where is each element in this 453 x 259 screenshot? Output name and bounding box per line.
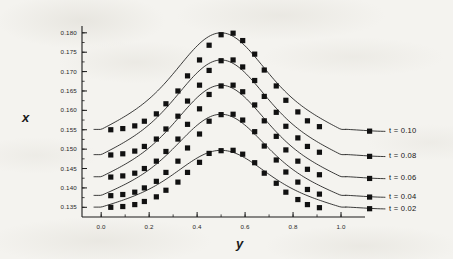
- x-tick-label: 0.4: [187, 223, 207, 230]
- data-point-marker: [120, 173, 125, 178]
- data-point-marker: [283, 147, 288, 152]
- y-tick-label: 0.155: [46, 126, 77, 133]
- series-3: [94, 112, 385, 200]
- data-point-marker: [230, 83, 235, 88]
- data-point-marker: [154, 179, 159, 184]
- y-tick-label: 0.145: [46, 165, 77, 172]
- figure-canvas: x y 0.1800.1750.1700.1650.1600.1550.1500…: [0, 0, 453, 259]
- data-point-marker: [295, 159, 300, 164]
- y-tick-label: 0.170: [46, 68, 77, 75]
- y-tick-label: 0.165: [46, 87, 77, 94]
- x-tick-label: 0.2: [139, 223, 159, 230]
- data-point-marker: [283, 190, 288, 195]
- data-point-marker: [142, 166, 147, 171]
- data-point-marker: [219, 112, 224, 117]
- data-point-marker: [283, 169, 288, 174]
- data-point-marker: [262, 118, 267, 123]
- data-point-marker: [274, 110, 279, 115]
- data-point-marker: [317, 124, 322, 129]
- y-tick-label: 0.160: [46, 106, 77, 113]
- data-point-marker: [240, 38, 245, 43]
- y-tick-label: 0.180: [46, 29, 77, 36]
- x-tick-label: 0.6: [235, 223, 255, 230]
- data-point-marker: [197, 131, 202, 136]
- legend-label-3: t = 0.04: [389, 192, 417, 201]
- data-point-marker: [283, 124, 288, 129]
- data-point-marker: [230, 57, 235, 62]
- data-point-marker: [262, 171, 267, 176]
- data-point-marker: [120, 151, 125, 156]
- y-tick-label: 0.135: [46, 203, 77, 210]
- data-point-marker: [163, 170, 168, 175]
- data-point-marker: [163, 126, 168, 131]
- data-point-marker: [142, 199, 147, 204]
- data-point-marker: [108, 174, 113, 179]
- data-point-marker: [252, 102, 257, 107]
- data-point-marker: [262, 94, 267, 99]
- data-point-marker: [197, 57, 202, 62]
- data-point-marker: [207, 43, 212, 48]
- data-point-marker: [142, 144, 147, 149]
- data-point-marker: [230, 148, 235, 153]
- data-series-group: [94, 31, 385, 212]
- series-2: [94, 83, 385, 182]
- y-axis-title: x: [22, 110, 29, 125]
- data-point-marker: [283, 98, 288, 103]
- x-tick-label: 0.8: [283, 223, 303, 230]
- data-point-marker: [108, 127, 113, 132]
- data-point-marker: [262, 67, 267, 72]
- data-point-marker: [274, 157, 279, 162]
- x-tick-label: 0.0: [91, 223, 111, 230]
- data-point-marker: [108, 152, 113, 157]
- data-point-marker: [175, 136, 180, 141]
- legend-key-marker: [367, 206, 372, 211]
- data-point-marker: [274, 181, 279, 186]
- legend-key-marker: [367, 194, 372, 199]
- data-point-marker: [154, 111, 159, 116]
- data-point-marker: [132, 202, 137, 207]
- data-point-marker: [305, 202, 310, 207]
- data-point-marker: [197, 83, 202, 88]
- legend-label-1: t = 0.08: [389, 151, 417, 160]
- data-point-marker: [108, 193, 113, 198]
- y-tick-label: 0.175: [46, 48, 77, 55]
- data-point-marker: [240, 152, 245, 157]
- data-point-marker: [230, 112, 235, 117]
- data-point-marker: [185, 170, 190, 175]
- x-axis-ticks: [101, 212, 341, 217]
- data-point-marker: [207, 151, 212, 156]
- legend-label-0: t = 0.10: [389, 126, 417, 135]
- series-0: [94, 31, 385, 134]
- data-point-marker: [185, 122, 190, 127]
- data-point-marker: [240, 117, 245, 122]
- data-point-marker: [317, 150, 322, 155]
- data-point-marker: [252, 160, 257, 165]
- legend-label-2: t = 0.06: [389, 173, 417, 182]
- data-point-marker: [240, 64, 245, 69]
- data-point-marker: [219, 58, 224, 63]
- data-point-marker: [219, 32, 224, 37]
- data-point-marker: [295, 135, 300, 140]
- data-point-marker: [262, 143, 267, 148]
- data-point-marker: [197, 160, 202, 165]
- data-point-marker: [154, 194, 159, 199]
- data-point-marker: [120, 192, 125, 197]
- data-point-marker: [207, 68, 212, 73]
- data-point-marker: [252, 52, 257, 57]
- legend-key-marker: [367, 176, 372, 181]
- data-point-marker: [317, 172, 322, 177]
- y-axis-ticks: [82, 33, 87, 207]
- data-point-marker: [197, 106, 202, 111]
- data-point-marker: [219, 83, 224, 88]
- data-point-marker: [317, 192, 322, 197]
- data-point-marker: [175, 159, 180, 164]
- data-point-marker: [305, 187, 310, 192]
- data-point-marker: [132, 171, 137, 176]
- data-point-marker: [305, 167, 310, 172]
- data-point-marker: [142, 185, 147, 190]
- data-point-marker: [132, 190, 137, 195]
- data-point-marker: [252, 78, 257, 83]
- legend-key-marker: [367, 129, 372, 134]
- data-point-marker: [295, 197, 300, 202]
- data-point-marker: [295, 109, 300, 114]
